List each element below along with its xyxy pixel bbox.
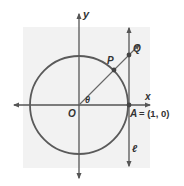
point-p-dot [112,68,117,73]
tangent-line-label: ℓ [132,143,138,154]
point-q-label: Q [133,43,141,54]
point-p-label: P [107,55,114,66]
point-a-coords: = (1, 0) [139,108,169,119]
unit-circle-diagram: y x O θ P Q A = (1, 0) ℓ [0,0,184,186]
angle-theta-label: θ [85,95,90,105]
point-a-label: A [129,108,137,119]
point-q-dot [127,53,132,58]
y-axis-label: y [82,8,90,20]
x-axis-label: x [144,91,151,102]
point-a-dot [127,103,132,108]
origin-label: O [68,108,76,119]
